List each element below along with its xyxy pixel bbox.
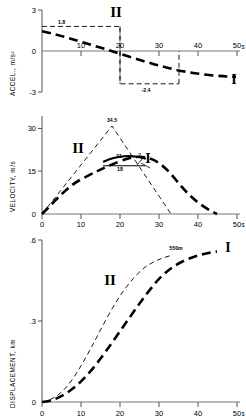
x-tick-label: 10	[77, 409, 85, 418]
annotation-peak: 34.5	[107, 117, 117, 123]
y-tick-label: 3	[32, 6, 36, 15]
x-tick-label: 0	[40, 409, 44, 418]
y-tick-label: 30	[28, 124, 36, 133]
x-tick-label: 40	[194, 41, 202, 50]
y-tick-label: -3	[29, 88, 36, 97]
curve-one-acceleration	[42, 31, 236, 77]
y-tick-label: 0	[32, 398, 36, 407]
x-axis-unit: s	[241, 410, 245, 417]
annotation-upper: 21	[116, 153, 122, 159]
x-tick-label: 40	[194, 220, 202, 229]
curve-label-two: II	[72, 140, 84, 156]
x-axis-unit: s	[241, 221, 245, 228]
panel-velocity: VELOCITY, m/s 30 15 0 0 10 20 30 40 50 s	[0, 108, 246, 230]
annotation-lower: 18	[117, 166, 123, 172]
acceleration-plot: 3 0 -3 10 20 30 40 50 s 1.8 -2.4 II I	[0, 0, 246, 108]
axis-label-displacement: DISPLACEMENT, km	[9, 339, 16, 408]
curve-label-one: I	[145, 151, 150, 166]
x-tick-label: 0	[40, 220, 44, 229]
x-tick-label: 50	[233, 220, 241, 229]
axis-label-acceleration: ACCEL., m/s²	[9, 51, 16, 96]
panel-displacement: DISPLACEMENT, km .6 .3 0 0 10 20 30 40 5…	[0, 230, 246, 420]
x-tick-label: 30	[155, 41, 163, 50]
velocity-plot: 30 15 0 0 10 20 30 40 50 s 34.5 21 3 18 …	[0, 108, 246, 230]
axis-label-velocity: VELOCITY, m/s	[9, 161, 16, 212]
curve-one-displacement	[42, 252, 217, 403]
x-tick-label: 20	[116, 220, 124, 229]
y-tick-label: .6	[30, 236, 36, 245]
x-tick-label: 50	[233, 41, 241, 50]
annotation-marker: 550m	[169, 245, 183, 251]
x-tick-label: 10	[77, 220, 85, 229]
x-tick-label: 40	[194, 409, 202, 418]
x-tick-label: 50	[233, 409, 241, 418]
y-tick-label: .3	[30, 317, 36, 326]
x-axis-unit: s	[241, 43, 245, 50]
y-tick-label: 0	[32, 210, 36, 219]
curve-two-velocity	[42, 126, 171, 214]
x-tick-label: 30	[155, 409, 163, 418]
annotation-high: 1.8	[58, 19, 65, 25]
x-tick-label: 20	[116, 409, 124, 418]
curve-label-one: I	[225, 240, 230, 255]
x-tick-label: 30	[155, 220, 163, 229]
displacement-plot: .6 .3 0 0 10 20 30 40 50 s 550m II I	[0, 230, 246, 420]
annotation-low: -2.4	[142, 87, 151, 93]
curve-label-two: II	[110, 4, 122, 20]
curve-label-one: I	[231, 72, 236, 87]
y-tick-label: 15	[28, 167, 36, 176]
y-tick-label: 0	[32, 47, 36, 56]
panel-acceleration: ACCEL., m/s² 3 0 -3 10 20 30 40 50 s 1.8…	[0, 0, 246, 108]
curve-label-two: II	[104, 272, 116, 288]
